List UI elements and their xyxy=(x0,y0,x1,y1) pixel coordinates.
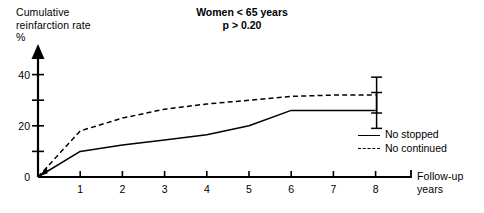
x-tick-label: 2 xyxy=(119,183,125,195)
series-line-no-stopped xyxy=(38,110,376,177)
error-bars-group xyxy=(371,77,382,128)
x-tick-label: 8 xyxy=(373,183,379,195)
y-tick-label: 20 xyxy=(6,120,30,132)
series-group xyxy=(38,95,376,177)
x-tick-label: 4 xyxy=(204,183,210,195)
x-tick-label: 7 xyxy=(330,183,336,195)
x-tick-label: 3 xyxy=(162,183,168,195)
plot-area xyxy=(0,0,484,213)
y-tick-label: 0 xyxy=(14,171,30,183)
chart-figure: Women < 65 years p > 0.20 Cumulative rei… xyxy=(0,0,484,213)
error-bar-no-continued xyxy=(371,77,382,113)
y-tick-label: 40 xyxy=(6,69,30,81)
x-tick-label: 5 xyxy=(246,183,252,195)
y-axis-arrow-icon xyxy=(32,44,45,59)
x-tick-label: 1 xyxy=(77,183,83,195)
series-line-no-continued xyxy=(38,95,376,177)
x-tick-label: 6 xyxy=(288,183,294,195)
